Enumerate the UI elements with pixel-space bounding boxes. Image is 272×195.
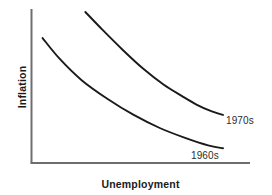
- curve-label-1970s: 1970s: [226, 115, 254, 126]
- chart-plot-area: [0, 0, 272, 195]
- x-axis-title: Unemployment: [31, 174, 250, 192]
- curve-label-1960s: 1960s: [191, 150, 219, 161]
- curve-1960s: [43, 38, 223, 148]
- curve-1970s: [85, 12, 223, 115]
- phillips-curve-chart: Inflation Unemployment 1970s 1960s: [0, 0, 272, 195]
- x-axis-title-text: Unemployment: [101, 178, 179, 190]
- y-axis-title: Inflation: [12, 10, 32, 163]
- y-axis-title-text: Inflation: [16, 65, 28, 108]
